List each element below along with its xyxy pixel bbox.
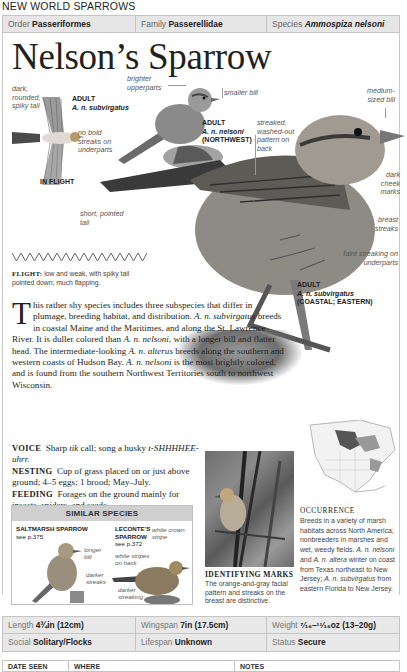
facts-row: Social Solitary/Flocks Lifespan Unknown … [3,634,399,651]
annotation-short-tail: short, pointed tail [80,210,125,227]
leader-line [168,85,186,86]
page-title: Nelson’s Sparrow [12,35,271,78]
leconte-sparrow-illustration [112,556,192,604]
leader-line [385,108,386,118]
annotation-medium-bill: medium-sized bill [355,87,395,104]
occurrence-text: Breeds in a variety of marsh habitats ac… [300,516,400,594]
facts-row: Length 4¾in (12cm) Wingspan 7in (17.5cm)… [3,617,399,634]
annotation-longer-bill: longer bill [84,546,104,560]
species-description: This rather shy species includes three s… [12,300,284,391]
section-title: NEW WORLD SPARROWS [2,0,136,12]
bird-in-reeds-photo [205,451,294,567]
log-where: WHERE [69,661,235,671]
taxonomy-order: Order Passeriformes [3,16,136,32]
caption-in-flight: IN FLIGHT [40,178,74,187]
identifying-marks-photo [205,451,294,567]
facts-table: Length 4¾in (12cm) Wingspan 7in (17.5cm)… [2,616,400,652]
annotation-faint-streaking: faint streaking on underparts [343,250,398,267]
caption-nelsoni: ADULTA. n. nelsoni(NORTHWEST) [202,119,252,145]
species-details: VOICE Sharp tik call; song a husky t-SHH… [12,443,202,511]
similar-species-2: LECONTE’S SPARROWsee p.372 [115,525,145,548]
fact-social: Social Solitary/Flocks [3,634,136,651]
fact-status: Status Secure [267,634,399,651]
similar-species-box: SIMILAR SPECIES SALTMARSH SPARROWsee p.3… [11,505,193,605]
similar-species-heading: SIMILAR SPECIES [12,506,192,521]
annotation-white-crown: white crown stripe [152,526,190,540]
fact-weight: Weight ⁷⁄₁₆–¹¹⁄₁₆oz (13–20g) [267,617,399,633]
annotation-tail: dark, rounded, spiky tail [12,85,42,111]
voice-entry: VOICE Sharp tik call; song a husky t-SHH… [12,443,202,466]
log-notes: NOTES [235,661,399,671]
caption-flight-adult: ADULTA. n. subvirgatus [72,95,129,112]
taxonomy-species: Species Ammospiza nelsoni [267,16,399,32]
annotation-streaked-back: streaked, washed-out pattern on back [257,119,297,153]
occurrence-title: OCCURRENCE [300,506,355,515]
taxonomy-family: Family Passerellidae [136,16,267,32]
saltmarsh-sparrow-illustration [30,541,85,603]
log-date-seen: DATE SEEN [3,661,69,671]
fact-length: Length 4¾in (12cm) [3,617,136,633]
nesting-entry: NESTING Cup of grass placed on or just a… [12,466,202,489]
flight-description: FLIGHT: low and weak, with spiky tail po… [12,269,152,287]
caption-main-adult: ADULTA. n. subvirgatus(COASTAL; EASTERN) [297,281,373,307]
annotation-darker-streaks: darker streaks [86,571,108,585]
leader-line [222,88,223,98]
annotation-smaller-bill: smaller bill [224,89,258,98]
identifying-marks-text: The orange-and-gray facial pattern and s… [205,580,305,606]
fact-wingspan: Wingspan 7in (17.5cm) [136,617,267,633]
annotation-cheek-marks: dark cheek marks [372,171,400,197]
similar-species-1: SALTMARSH SPARROWsee p.375 [16,525,88,540]
flight-pattern-zigzag-icon [12,251,147,263]
identifying-marks-title: IDENTIFYING MARKS [205,570,293,579]
annotation-breast-streaks: breast streaks [365,216,398,233]
sighting-log: DATE SEEN WHERE NOTES [2,660,400,672]
range-map [300,420,400,500]
annotation-no-streaks: no bold streaks on underparts [78,129,120,155]
annotation-brighter-upperparts: brighter upperparts [127,75,169,92]
leader-line [255,135,256,175]
taxonomy-bar: Order Passeriformes Family Passerellidae… [2,15,400,33]
fact-lifespan: Lifespan Unknown [136,634,267,651]
